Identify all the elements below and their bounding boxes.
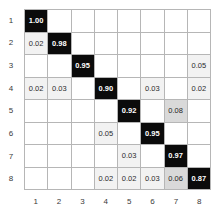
heatmap-cell-r3-c7 (165, 55, 188, 78)
heatmap-cell-r8-c8: 0.87 (188, 168, 211, 191)
x-axis-tick-4: 4 (94, 192, 117, 210)
heatmap-cell-r6-c6: 0.95 (141, 123, 164, 146)
y-axis-tick-3: 3 (0, 54, 22, 77)
heatmap-cell-r2-c1: 0.02 (25, 33, 48, 56)
heatmap-cell-r1-c2 (48, 10, 71, 33)
heatmap-cell-r3-c5 (118, 55, 141, 78)
confusion-matrix-figure: 12345678 1.000.020.980.950.050.020.030.9… (0, 0, 221, 221)
heatmap-cell-r7-c5: 0.03 (118, 145, 141, 168)
heatmap-cell-r5-c5: 0.92 (118, 100, 141, 123)
heatmap-cell-r8-c2 (48, 168, 71, 191)
heatmap-cell-r5-c6 (141, 100, 164, 123)
heatmap-cell-r8-c6: 0.03 (141, 168, 164, 191)
heatmap-cell-r5-c7: 0.08 (165, 100, 188, 123)
heatmap-cell-r5-c4 (95, 100, 118, 123)
y-axis-tick-labels: 12345678 (0, 9, 22, 190)
heatmap-cell-r4-c8: 0.02 (188, 78, 211, 101)
heatmap-cell-r8-c7: 0.06 (165, 168, 188, 191)
y-axis-tick-6: 6 (0, 122, 22, 145)
heatmap-cell-r6-c3 (72, 123, 95, 146)
heatmap-cell-r2-c8 (188, 33, 211, 56)
heatmap-cell-r5-c3 (72, 100, 95, 123)
heatmap-cell-r5-c8 (188, 100, 211, 123)
heatmap-cell-r4-c3 (72, 78, 95, 101)
x-axis-tick-2: 2 (47, 192, 70, 210)
x-axis-tick-6: 6 (141, 192, 164, 210)
x-axis-tick-labels: 12345678 (24, 192, 211, 210)
heatmap-cell-r2-c2: 0.98 (48, 33, 71, 56)
heatmap-cell-r7-c8 (188, 145, 211, 168)
heatmap-cell-r3-c3: 0.95 (72, 55, 95, 78)
heatmap-cell-r4-c5 (118, 78, 141, 101)
x-axis-tick-7: 7 (164, 192, 187, 210)
heatmap-cell-r1-c6 (141, 10, 164, 33)
heatmap-cell-r6-c7 (165, 123, 188, 146)
heatmap-cell-r4-c1: 0.02 (25, 78, 48, 101)
heatmap-cell-r4-c4: 0.90 (95, 78, 118, 101)
heatmap-cell-r1-c4 (95, 10, 118, 33)
heatmap-cell-r6-c8 (188, 123, 211, 146)
heatmap-cell-r1-c3 (72, 10, 95, 33)
heatmap-cell-r6-c1 (25, 123, 48, 146)
x-axis-tick-1: 1 (24, 192, 47, 210)
heatmap-cell-r1-c7 (165, 10, 188, 33)
x-axis-tick-8: 8 (188, 192, 211, 210)
heatmap-cell-r7-c1 (25, 145, 48, 168)
heatmap-grid: 1.000.020.980.950.050.020.030.900.030.02… (24, 9, 211, 190)
y-axis-tick-5: 5 (0, 100, 22, 123)
heatmap-cell-r8-c4: 0.02 (95, 168, 118, 191)
heatmap-cell-r4-c6: 0.03 (141, 78, 164, 101)
heatmap-cell-r1-c1: 1.00 (25, 10, 48, 33)
heatmap-cell-r3-c4 (95, 55, 118, 78)
heatmap-cell-r8-c3 (72, 168, 95, 191)
heatmap-cell-r4-c7 (165, 78, 188, 101)
heatmap-cell-r2-c7 (165, 33, 188, 56)
heatmap-cell-r3-c8: 0.05 (188, 55, 211, 78)
heatmap-cell-r7-c3 (72, 145, 95, 168)
heatmap-cell-r7-c2 (48, 145, 71, 168)
heatmap-cell-r7-c6 (141, 145, 164, 168)
heatmap-cell-r1-c5 (118, 10, 141, 33)
heatmap-cell-r2-c4 (95, 33, 118, 56)
heatmap-cell-r5-c1 (25, 100, 48, 123)
heatmap-cell-r6-c4: 0.05 (95, 123, 118, 146)
heatmap-cell-r5-c2 (48, 100, 71, 123)
heatmap-cell-r4-c2: 0.03 (48, 78, 71, 101)
heatmap-cell-r8-c5: 0.02 (118, 168, 141, 191)
heatmap-cell-r8-c1 (25, 168, 48, 191)
heatmap-cell-r3-c6 (141, 55, 164, 78)
y-axis-tick-1: 1 (0, 9, 22, 32)
y-axis-tick-8: 8 (0, 167, 22, 190)
heatmap-cell-r7-c7: 0.97 (165, 145, 188, 168)
heatmap-cell-r2-c3 (72, 33, 95, 56)
x-axis-tick-3: 3 (71, 192, 94, 210)
heatmap-cell-r7-c4 (95, 145, 118, 168)
heatmap-cell-r6-c2 (48, 123, 71, 146)
heatmap-cell-r2-c6 (141, 33, 164, 56)
y-axis-tick-4: 4 (0, 77, 22, 100)
heatmap-cell-r2-c5 (118, 33, 141, 56)
heatmap-cell-r3-c1 (25, 55, 48, 78)
y-axis-tick-2: 2 (0, 32, 22, 55)
heatmap-cell-r6-c5 (118, 123, 141, 146)
y-axis-tick-7: 7 (0, 145, 22, 168)
heatmap-cell-r3-c2 (48, 55, 71, 78)
x-axis-tick-5: 5 (118, 192, 141, 210)
heatmap-cell-r1-c8 (188, 10, 211, 33)
